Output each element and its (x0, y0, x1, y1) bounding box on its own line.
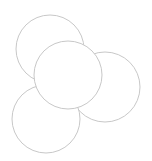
circle-center (34, 41, 102, 109)
circles-diagram (0, 0, 152, 161)
